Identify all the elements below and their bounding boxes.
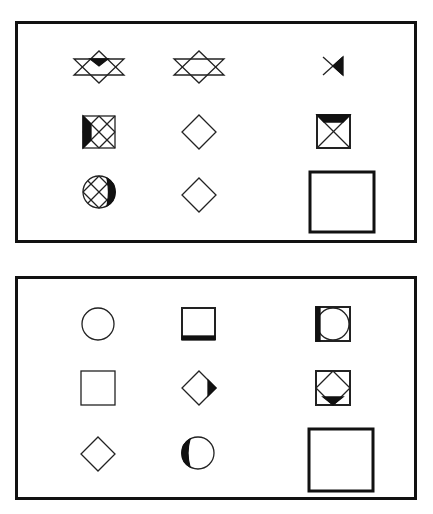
circle-icon xyxy=(81,307,115,341)
diamond-filled-right-icon xyxy=(181,370,217,406)
circle-filled-left-icon xyxy=(181,436,215,470)
diamond-icon xyxy=(80,436,116,472)
crosshatch-circle-filled-right-icon xyxy=(82,175,116,209)
square-circle-filled-left-icon xyxy=(315,306,351,342)
crosshatch-square-filled-left-icon xyxy=(82,115,116,149)
square-thick-bottom-icon xyxy=(181,307,216,341)
star-filled-top-icon xyxy=(73,50,125,84)
star-icon xyxy=(173,50,225,84)
square-icon xyxy=(80,370,116,406)
square-x-filled-top-icon xyxy=(316,114,351,149)
answer-blank-square[interactable] xyxy=(308,170,376,234)
square-diamond-filled-bottom-icon xyxy=(315,370,351,406)
answer-blank-square[interactable] xyxy=(307,427,375,493)
bowtie-filled-right-icon xyxy=(322,55,344,77)
diamond-icon xyxy=(181,114,217,150)
diamond-icon xyxy=(181,177,217,213)
